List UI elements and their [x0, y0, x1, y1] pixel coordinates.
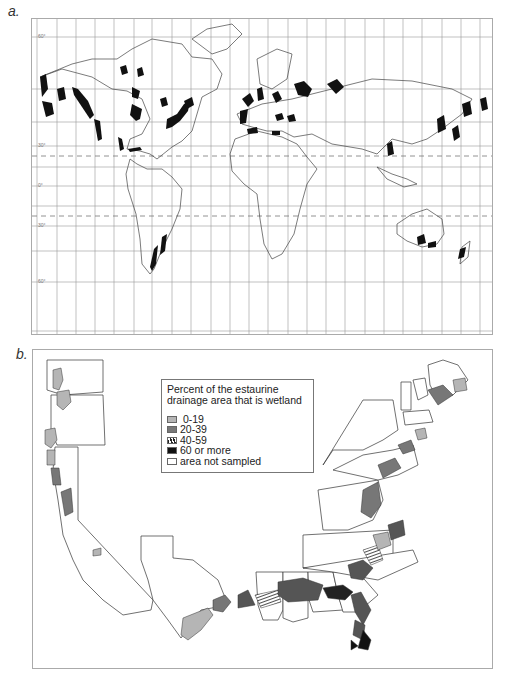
legend-item-not-sampled: area not sampled	[167, 456, 308, 467]
legend-title: Percent of the estaurine drainage area t…	[167, 384, 308, 406]
legend-title-line2: drainage area that is wetland	[167, 395, 308, 406]
swatch-black	[167, 447, 177, 454]
lat-label-60s: 60°	[38, 278, 46, 284]
world-map-panel: 60° 30° 0° 30° 60°	[31, 18, 493, 335]
legend-label: area not sampled	[180, 456, 261, 467]
panel-a-label: a.	[8, 3, 20, 19]
swatch-hatched	[167, 437, 177, 444]
swatch-mid-gray	[167, 426, 177, 433]
lat-label-equator: 0°	[38, 182, 43, 188]
coastlines	[40, 24, 472, 274]
legend: Percent of the estaurine drainage area t…	[161, 379, 314, 473]
wetland-coasts	[40, 65, 488, 271]
swatch-white	[167, 458, 177, 465]
lat-label-60n: 60°	[38, 33, 46, 39]
swatch-light-gray	[167, 416, 177, 423]
world-map	[32, 19, 492, 334]
panel-b-label: b.	[16, 346, 28, 362]
lat-label-30n: 30°	[38, 142, 46, 148]
graticule	[32, 19, 492, 334]
lat-label-30s: 30°	[38, 222, 46, 228]
us-coastal-map-panel: Percent of the estaurine drainage area t…	[32, 349, 493, 669]
